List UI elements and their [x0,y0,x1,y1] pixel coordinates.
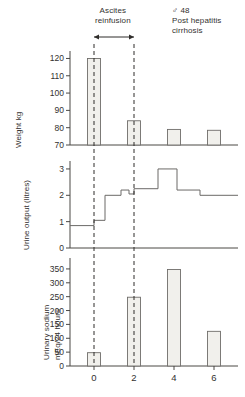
y-tick-label-0-2: 90 [55,105,65,115]
y-tick-label-1-1: 1 [59,217,64,227]
bar-2-4 [168,269,181,366]
y-tick-label-2-1: 50 [55,347,65,357]
y-tick-label-0-4: 110 [50,71,64,81]
bar-2-6 [208,331,221,366]
y-tick-label-1-0: 0 [59,243,64,253]
bar-0-4 [168,129,181,145]
urine-step-line [70,169,238,226]
y-tick-label-2-3: 150 [50,319,64,329]
y-tick-label-0-0: 70 [55,140,65,150]
y-tick-label-2-7: 350 [50,264,64,274]
x-tick-label-3: 6 [211,372,216,383]
y-tick-label-1-2: 2 [59,190,64,200]
reinfusion-arrow-head-left [94,34,99,39]
y-tick-label-0-3: 100 [50,88,64,98]
chart-canvas: 7080901001101200123050100150200250300350… [0,0,245,397]
x-tick-label-1: 2 [131,372,136,383]
y-tick-label-2-5: 250 [50,292,64,302]
x-tick-label-2: 4 [171,372,176,383]
y-tick-label-0-5: 120 [50,53,64,63]
y-tick-label-2-6: 300 [50,278,64,288]
y-tick-label-2-0: 0 [59,361,64,371]
y-tick-label-0-1: 80 [55,123,65,133]
y-tick-label-2-4: 200 [50,306,64,316]
y-tick-label-1-3: 3 [59,164,64,174]
bar-0-6 [208,130,221,145]
y-tick-label-2-2: 100 [50,333,64,343]
x-tick-label-0: 0 [91,372,96,383]
figure-container: Ascites reinfusion ♂ 48 Post hepatitis c… [0,0,245,397]
reinfusion-arrow-head-right [129,34,134,39]
